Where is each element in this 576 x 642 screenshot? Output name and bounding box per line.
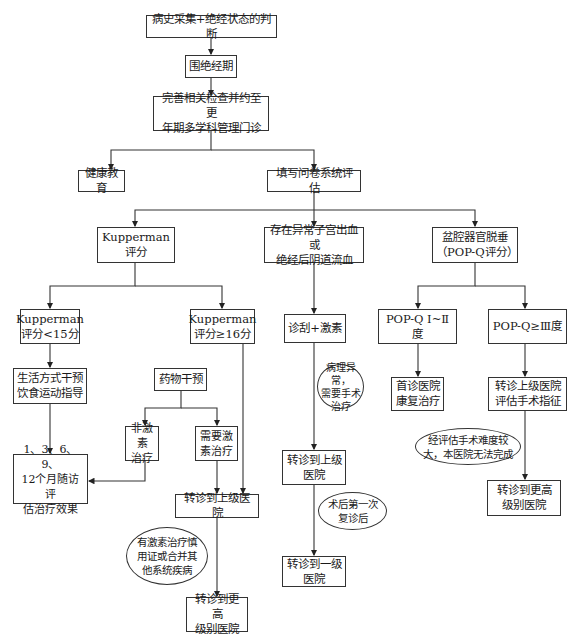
node-refer-surgery-eval: 转诊上级医院 评估手术指征 bbox=[488, 377, 567, 411]
node-history-collection: 病史采集+绝经状态的判断 bbox=[146, 15, 277, 38]
node-refer-higher-hospital-left: 转诊到更高 级别医院 bbox=[186, 597, 248, 632]
node-lifestyle-intervention: 生活方式干预 饮食运动指导 bbox=[13, 368, 87, 404]
condition-contraindication: 有激素治疗慎 用证或合并其 他系统疾病 bbox=[126, 527, 208, 585]
node-kupperman-low: Kupperman 评分<15分 bbox=[20, 309, 80, 344]
node-refer-primary-hospital: 转诊到一级 医院 bbox=[282, 556, 346, 587]
node-clinic-referral: 完善相关检查并约至更 年期多学科管理门诊 bbox=[153, 96, 269, 131]
node-popq-severe: POP-Q≥Ⅲ度 bbox=[488, 309, 567, 344]
node-perimenopause: 围绝经期 bbox=[185, 55, 237, 78]
node-kupperman-score: Kupperman评分 bbox=[97, 227, 175, 263]
condition-pathology-abnormal: 病理异常， 需要手术 治疗 bbox=[317, 364, 364, 409]
node-rehab-treatment: 首诊医院 康复治疗 bbox=[391, 377, 444, 411]
node-pelvic-prolapse: 盆腔器官脱垂 （POP-Q评分） bbox=[432, 227, 518, 263]
node-abnormal-bleeding: 存在异常子宫出血或 绝经后阴道流血 bbox=[264, 227, 364, 263]
node-refer-upper-hospital: 转诊到上级医院 bbox=[175, 494, 259, 518]
condition-surgery-difficult: 经评估手术难度较 大，本医院无法完成 bbox=[415, 428, 521, 465]
node-refer-higher-hospital-right: 转诊到更高 级别医院 bbox=[487, 480, 561, 516]
node-questionnaire: 填写问卷系统评估 bbox=[267, 170, 361, 192]
node-refer-upper-hospital-bleeding: 转诊到上级 医院 bbox=[282, 450, 346, 485]
node-kupperman-high: Kupperman 评分≥16分 bbox=[190, 309, 255, 344]
node-drug-intervention: 药物干预 bbox=[154, 368, 207, 391]
condition-post-op-visit: 术后第一次 复诊后 bbox=[318, 492, 387, 530]
node-curettage-hormone: 诊刮+激素 bbox=[284, 314, 346, 343]
node-health-education: 健康教育 bbox=[78, 170, 125, 192]
node-hormone-therapy: 需要激 素治疗 bbox=[195, 426, 238, 461]
node-non-hormone-therapy: 非激素 治疗 bbox=[125, 426, 159, 461]
node-popq-mild: POP-Q Ⅰ~Ⅱ度 bbox=[378, 309, 457, 344]
node-followup: 1、3、6、9、 12个月随访评 估治疗效果 bbox=[13, 454, 88, 504]
